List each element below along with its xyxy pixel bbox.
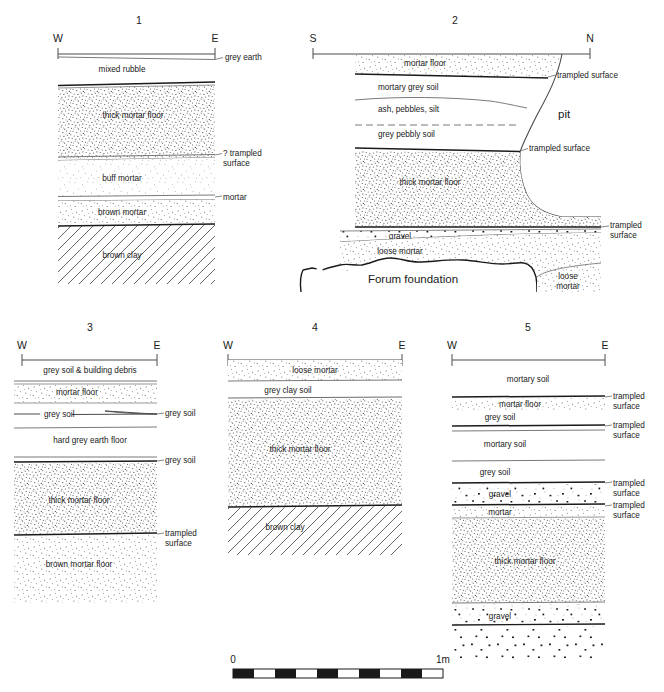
- section-5-label-gravel-2: gravel: [489, 612, 511, 621]
- section-5-label-trampled-4a: trampled: [613, 501, 645, 510]
- section-2-label-loose-mortar: loose mortar: [377, 247, 423, 256]
- section-2-label-trampled: trampled: [610, 221, 642, 230]
- section-3-label-trampled: trampled: [165, 529, 197, 538]
- section-2-label-ash-pebbles-silt: ash, pebbles, silt: [378, 105, 440, 114]
- section-5-label-trampled-1a: trampled: [613, 392, 645, 401]
- section-2-north-label: N: [586, 32, 594, 44]
- section-4-layer-brown-clay: brown clay: [228, 505, 402, 555]
- section-5-label-gravel-1: gravel: [489, 490, 511, 499]
- section-5-label-grey-soil-2: grey soil: [480, 468, 511, 477]
- section-4-layer-thick-mortar-floor: thick mortar floor: [228, 397, 402, 506]
- section-2-label-mortar-floor: mortar floor: [404, 59, 446, 68]
- section-2-label-mortary-grey-soil: mortary grey soil: [378, 83, 439, 92]
- section-5-west-label: W: [447, 339, 457, 351]
- section-2-label-loose: loose: [558, 272, 578, 281]
- section-3-label-brown-mortar-floor: brown mortar floor: [46, 560, 113, 569]
- section-5-label-surface-1b: surface: [613, 402, 640, 411]
- section-4-label-thick-mortar-floor: thick mortar floor: [270, 445, 331, 454]
- section-3-label-hard-grey-earth-floor: hard grey earth floor: [53, 436, 127, 445]
- section-3-east-label: E: [153, 339, 160, 351]
- section-1-layer-thick-mortar-floor: thick mortar floor: [58, 82, 215, 159]
- section-3-label-mortar-floor: mortar floor: [56, 388, 98, 397]
- scale-bar-label-one-metre: 1m: [436, 654, 450, 665]
- section-5-label-surface-3b: surface: [613, 489, 640, 498]
- section-5-label-thick-mortar-floor: thick mortar floor: [495, 557, 556, 566]
- section-5-label-mortar: mortar: [488, 508, 512, 517]
- section-5-label-surface-4b: surface: [613, 511, 640, 520]
- section-1-label-thick-mortar-floor: thick mortar floor: [103, 111, 164, 120]
- section-4-label-grey-clay-soil: grey clay soil: [264, 386, 312, 395]
- archaeological-sections-figure: 1 W E grey earth mixed rubble thick mort…: [0, 0, 664, 692]
- section-4-label-brown-clay: brown clay: [265, 523, 305, 532]
- section-3-label-thick-mortar-floor: thick mortar floor: [49, 496, 110, 505]
- scale-bar-segments: [233, 669, 443, 678]
- section-5-number: 5: [525, 321, 531, 333]
- section-4-layer-loose-mortar: loose mortar: [228, 360, 402, 381]
- section-2-label-pit: pit: [558, 108, 571, 120]
- section-2-label-thick-mortar-floor: thick mortar floor: [400, 178, 461, 187]
- section-3-label-grey-soil-debris: grey soil & building debris: [43, 366, 136, 375]
- section-5-label-grey-soil-1: grey soil: [485, 413, 516, 422]
- section-2-label-trampled-surface-1: trampled surface: [557, 71, 618, 80]
- section-5-label-mortary-soil-2: mortary soil: [484, 440, 526, 449]
- section-2-layer-mortar-floor: mortar floor: [355, 55, 561, 78]
- section-3-number: 3: [87, 321, 93, 333]
- section-1-number: 1: [136, 14, 142, 26]
- section-4-number: 4: [312, 321, 318, 333]
- section-5-trampled-line-2a: [452, 425, 605, 426]
- section-5-label-surface-2b: surface: [613, 431, 640, 440]
- section-drawing-sheet: 1 W E grey earth mixed rubble thick mort…: [0, 0, 664, 692]
- section-5-layer-gravel-2: gravel: [452, 602, 605, 625]
- section-5-east-label: E: [601, 339, 608, 351]
- section-5-label-trampled-3a: trampled: [613, 479, 645, 488]
- section-5-layer-gravel-lowest: [452, 626, 605, 662]
- section-4-east-label: E: [398, 339, 405, 351]
- section-4-label-loose-mortar: loose mortar: [292, 366, 338, 375]
- scale-bar-label-zero: 0: [230, 654, 236, 665]
- section-1-label-mortar: mortar: [223, 193, 247, 202]
- section-2-south-label: S: [309, 32, 316, 44]
- section-1-label-q-trampled: ? trampled: [223, 149, 262, 158]
- section-1-east-label: E: [211, 32, 218, 44]
- section-3-label-grey-soil-right-1: grey soil: [165, 409, 196, 418]
- section-5-label-trampled-2a: trampled: [613, 421, 645, 430]
- section-5-label-mortary-soil-1: mortary soil: [507, 375, 549, 384]
- section-1-label-mixed-rubble: mixed rubble: [99, 65, 146, 74]
- section-3-label-grey-soil-right-2: grey soil: [165, 456, 196, 465]
- section-1-layer-buff-mortar: buff mortar: [58, 158, 215, 197]
- section-2-number: 2: [452, 14, 458, 26]
- section-1-label-brown-mortar: brown mortar: [98, 208, 147, 217]
- section-1-label-brown-clay: brown clay: [102, 251, 142, 260]
- section-3-west-label: W: [17, 339, 27, 351]
- section-3-layer-thick-mortar-floor: thick mortar floor: [14, 461, 157, 534]
- section-5-layer-thick-mortar-floor: thick mortar floor: [452, 517, 605, 603]
- section-2-label-grey-pebbly-soil: grey pebbly soil: [378, 130, 435, 139]
- section-1-label-grey-earth: grey earth: [225, 53, 262, 62]
- section-3-label-grey-soil-in: grey soil: [44, 410, 75, 419]
- section-1-west-label: W: [53, 32, 63, 44]
- section-3-layer-brown-mortar-floor: brown mortar floor: [14, 535, 157, 603]
- section-5-layer-gravel-1: gravel: [452, 482, 605, 504]
- section-2-label-surface: surface: [610, 231, 637, 240]
- section-1-label-buff-mortar: buff mortar: [102, 174, 142, 183]
- section-3-layer-mortar-floor: mortar floor: [14, 384, 157, 403]
- section-5-label-mortar-floor: mortar floor: [499, 400, 541, 409]
- section-3-label-surface: surface: [165, 539, 192, 548]
- section-2-label-mortar-2: mortar: [556, 282, 580, 291]
- section-2-label-trampled-surface-2: trampled surface: [529, 144, 590, 153]
- section-1-layer-brown-mortar: brown mortar: [58, 200, 215, 227]
- section-1-layer-brown-clay: brown clay: [58, 224, 215, 284]
- section-1-label-surface: surface: [223, 159, 250, 168]
- section-2-label-forum-foundation: Forum foundation: [368, 273, 458, 285]
- section-4-west-label: W: [223, 339, 233, 351]
